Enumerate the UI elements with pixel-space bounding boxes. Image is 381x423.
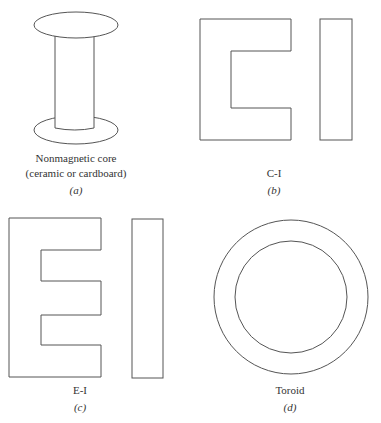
toroid-outer-circle — [214, 220, 368, 374]
e-i-bar — [132, 219, 163, 378]
panel-d-title: Toroid — [275, 384, 304, 397]
spool-core-shape — [34, 12, 118, 144]
e-i-core-shape — [9, 218, 163, 378]
c-i-bar — [320, 19, 352, 140]
c-core — [200, 19, 291, 140]
spool-top-flange — [34, 12, 118, 38]
e-core — [9, 218, 101, 377]
toroid-inner-circle — [235, 241, 347, 353]
panel-a-subtitle: (ceramic or cardboard) — [26, 167, 127, 180]
c-i-core-shape — [200, 19, 352, 140]
panel-b-tag: (b) — [268, 184, 281, 197]
core-types-figure — [0, 0, 381, 423]
spool-cylinder — [55, 36, 94, 130]
panel-a-title: Nonmagnetic core — [36, 152, 117, 165]
panel-b-title: C-I — [267, 167, 282, 180]
panel-a-tag: (a) — [70, 184, 83, 197]
panel-d-tag: (d) — [284, 401, 297, 414]
toroid-shape — [214, 220, 368, 374]
panel-c-title: E-I — [73, 384, 87, 397]
panel-c-tag: (c) — [74, 401, 86, 414]
